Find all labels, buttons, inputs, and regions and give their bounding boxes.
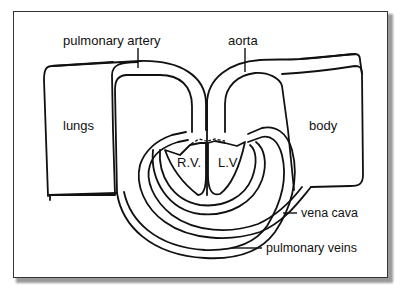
body-box-top <box>300 54 362 74</box>
label-vena-cava: vena cava <box>301 206 358 220</box>
pulmonary-veins-inner <box>124 137 284 250</box>
label-body: body <box>309 118 338 133</box>
label-pulmonary-veins: pulmonary veins <box>266 241 357 255</box>
label-right-ventricle: R.V. <box>177 155 201 170</box>
circulation-diagram: pulmonary artery aorta lungs body R.V. L… <box>0 0 403 291</box>
label-aorta: aorta <box>228 33 258 48</box>
vena-cava-inner <box>149 140 302 230</box>
label-lungs: lungs <box>63 118 95 133</box>
label-left-ventricle: L.V. <box>218 155 240 170</box>
label-pulmonary-artery: pulmonary artery <box>63 33 161 48</box>
